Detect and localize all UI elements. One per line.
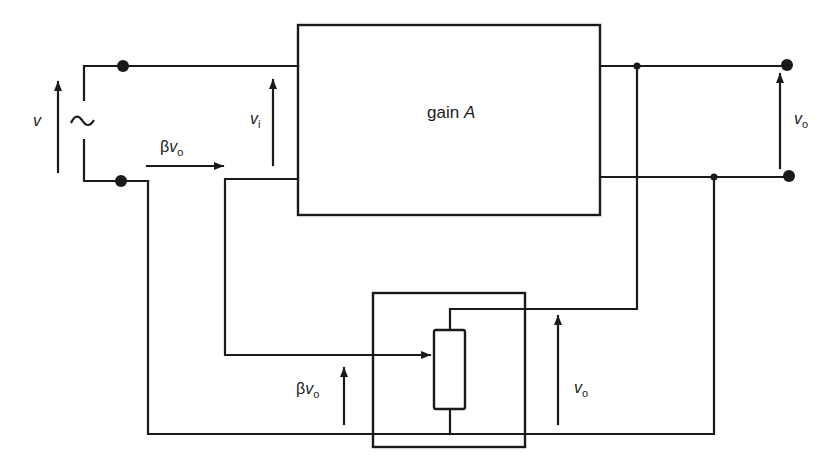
feedback-top-wire xyxy=(450,66,637,330)
feedback-label-bottom: βvo xyxy=(296,380,319,400)
feedback-voltage-label: vo xyxy=(574,379,588,399)
feedback-label-top: βvo xyxy=(160,138,183,158)
output-terminal-bottom xyxy=(783,170,795,182)
output-terminal-top xyxy=(781,59,793,71)
amplifier-label: gain A xyxy=(427,103,475,122)
ac-source xyxy=(71,66,298,181)
input-terminal-top xyxy=(117,60,129,72)
feedback-amplifier-diagram: gain A v vi βvo vo βvo vo xyxy=(0,0,832,472)
input-voltage-label: vi xyxy=(250,110,260,130)
junction-bottom xyxy=(711,174,718,181)
potentiometer-resistor-icon xyxy=(434,330,465,409)
source-voltage-label: v xyxy=(33,112,42,129)
input-terminal-bottom xyxy=(115,175,127,187)
wiper-wire xyxy=(225,179,430,355)
sine-wave-icon xyxy=(71,117,94,125)
output-voltage-label: vo xyxy=(794,110,808,130)
